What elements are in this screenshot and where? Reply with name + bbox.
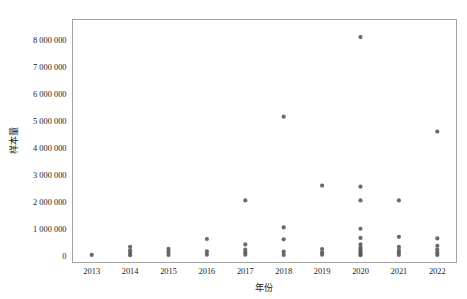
data-point — [282, 237, 286, 241]
data-point — [358, 227, 362, 231]
y-axis-tick-labels: 01 000 0002 000 0003 000 0004 000 0005 0… — [33, 36, 67, 261]
x-tick-label: 2015 — [160, 267, 177, 276]
x-axis-title: 年份 — [255, 282, 273, 293]
data-point — [358, 198, 362, 202]
data-point — [243, 198, 247, 202]
x-tick-label: 2014 — [122, 267, 140, 276]
y-tick-label: 5 000 000 — [33, 117, 67, 126]
x-tick-label: 2013 — [83, 267, 100, 276]
y-tick-label: 0 — [62, 252, 66, 261]
data-point — [435, 129, 439, 133]
data-point — [205, 237, 209, 241]
data-point — [282, 225, 286, 229]
data-point — [243, 242, 247, 246]
data-point — [243, 247, 247, 251]
data-point — [435, 236, 439, 240]
data-point — [397, 245, 401, 249]
data-point — [205, 249, 209, 253]
data-point — [282, 250, 286, 254]
chart-canvas: 01 000 0002 000 0003 000 0004 000 0005 0… — [0, 0, 467, 299]
y-tick-label: 7 000 000 — [33, 63, 67, 72]
x-tick-label: 2021 — [391, 267, 408, 276]
data-point — [435, 247, 439, 251]
scatter-chart: 01 000 0002 000 0003 000 0004 000 0005 0… — [0, 0, 467, 299]
chart-background — [0, 0, 467, 299]
data-point — [358, 236, 362, 240]
y-tick-label: 6 000 000 — [33, 90, 67, 99]
x-tick-label: 2019 — [314, 267, 331, 276]
data-point — [397, 198, 401, 202]
x-tick-label: 2020 — [352, 267, 369, 276]
y-tick-label: 3 000 000 — [33, 171, 67, 180]
data-point — [128, 245, 132, 249]
y-tick-label: 1 000 000 — [33, 225, 67, 234]
data-point — [358, 35, 362, 39]
data-point — [282, 115, 286, 119]
data-point — [320, 183, 324, 187]
data-point — [435, 244, 439, 248]
y-axis-title: 样本量 — [8, 127, 19, 154]
data-point — [90, 253, 94, 257]
data-point — [166, 247, 170, 251]
x-tick-label: 2016 — [199, 267, 216, 276]
y-tick-label: 4 000 000 — [33, 144, 67, 153]
x-tick-label: 2022 — [429, 267, 446, 276]
x-tick-label: 2017 — [237, 267, 254, 276]
x-tick-label: 2018 — [275, 267, 292, 276]
data-point — [358, 242, 362, 246]
y-tick-label: 2 000 000 — [33, 198, 67, 207]
data-point — [320, 247, 324, 251]
data-point — [397, 235, 401, 239]
data-point — [358, 185, 362, 189]
y-tick-label: 8 000 000 — [33, 36, 67, 45]
